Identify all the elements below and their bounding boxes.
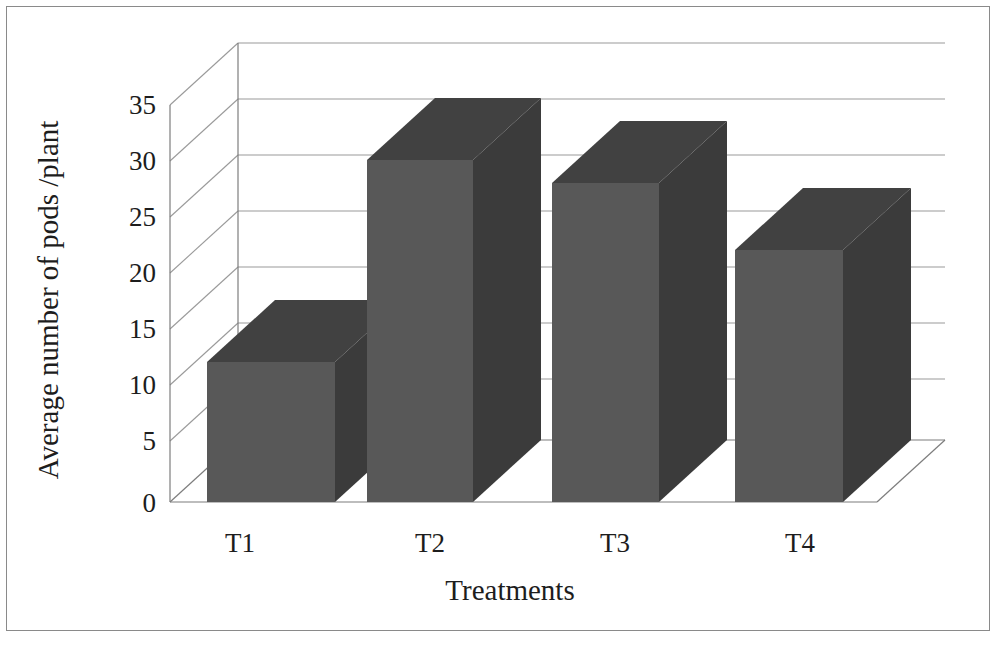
x-tick-labels: T1 T2 T3 T4 bbox=[225, 528, 815, 558]
x-tick-label-T1: T1 bbox=[225, 528, 255, 558]
figure-container: 35 30 25 20 15 10 5 0 T1 T2 T3 T4 Treatm… bbox=[0, 0, 1002, 653]
y-tick-labels: 35 30 25 20 15 10 5 0 bbox=[129, 90, 156, 518]
gridline-30 bbox=[170, 99, 945, 161]
y-tick-label-20: 20 bbox=[129, 258, 156, 288]
bar-T2-side bbox=[473, 98, 541, 502]
y-tick-label-30: 30 bbox=[129, 146, 156, 176]
bar-T2-front bbox=[367, 160, 473, 502]
bar-T2[interactable] bbox=[367, 98, 541, 502]
y-tick-label-0: 0 bbox=[143, 488, 157, 518]
bar-T4-front bbox=[735, 250, 843, 502]
bar-T3-side bbox=[659, 121, 727, 502]
y-tick-label-10: 10 bbox=[129, 370, 156, 400]
bar-T1-front bbox=[207, 362, 335, 502]
gridline-35 bbox=[170, 43, 945, 105]
y-tick-label-5: 5 bbox=[143, 426, 157, 456]
x-tick-label-T4: T4 bbox=[785, 528, 815, 558]
x-tick-label-T2: T2 bbox=[415, 528, 445, 558]
bar-chart: 35 30 25 20 15 10 5 0 T1 T2 T3 T4 Treatm… bbox=[0, 0, 1002, 653]
y-tick-label-25: 25 bbox=[129, 202, 156, 232]
bar-T3-front bbox=[552, 183, 659, 502]
x-tick-label-T3: T3 bbox=[600, 528, 630, 558]
y-axis-title: Average number of pods /plant bbox=[32, 121, 64, 480]
x-axis-title: Treatments bbox=[445, 574, 574, 606]
y-tick-label-15: 15 bbox=[129, 314, 156, 344]
bar-T3[interactable] bbox=[552, 121, 727, 502]
bar-T4[interactable] bbox=[735, 188, 911, 502]
y-tick-label-35: 35 bbox=[129, 90, 156, 120]
